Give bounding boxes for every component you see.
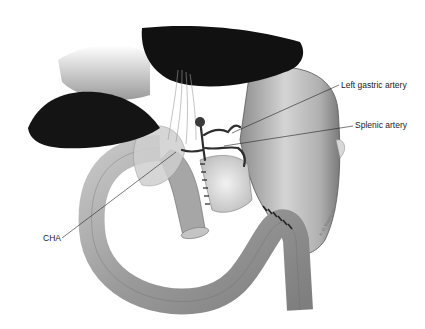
common-hepatic-artery-vessel [182, 150, 203, 152]
label-left-gastric-artery: Left gastric artery [341, 81, 407, 90]
celiac-origin [195, 117, 205, 127]
label-splenic-artery: Splenic artery [355, 121, 407, 130]
label-cha: CHA [43, 234, 61, 243]
anatomy-illustration [0, 0, 425, 329]
left-gastric-artery-vessel [204, 126, 240, 135]
liver-left-lobe-light [58, 45, 150, 100]
